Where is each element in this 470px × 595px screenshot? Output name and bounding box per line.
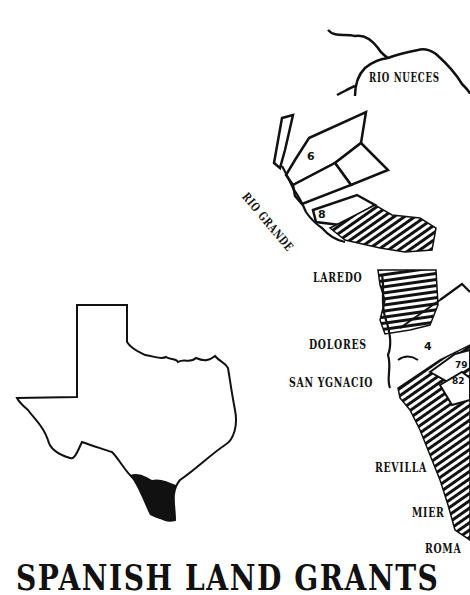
label-revilla: REVILLA xyxy=(375,460,427,475)
label-dolores: DOLORES xyxy=(309,337,367,352)
label-laredo: LAREDO xyxy=(313,270,362,285)
parcel-number-82: 82 xyxy=(452,376,465,386)
label-san-ygnacio: SAN YGNACIO xyxy=(289,375,373,390)
parcel-number-8: 8 xyxy=(318,208,326,221)
rio-nueces-river xyxy=(328,30,470,96)
label-roma: ROMA xyxy=(425,541,461,556)
map-title: SPANISH LAND GRANTS xyxy=(16,556,439,595)
label-mier: MIER xyxy=(412,505,445,520)
label-rio-nueces: RIO NUECES xyxy=(369,71,440,85)
parcel-number-4: 4 xyxy=(424,340,432,353)
parcel-number-79: 79 xyxy=(455,360,468,370)
texas-outline xyxy=(17,305,236,521)
parcel-number-6: 6 xyxy=(307,150,315,163)
